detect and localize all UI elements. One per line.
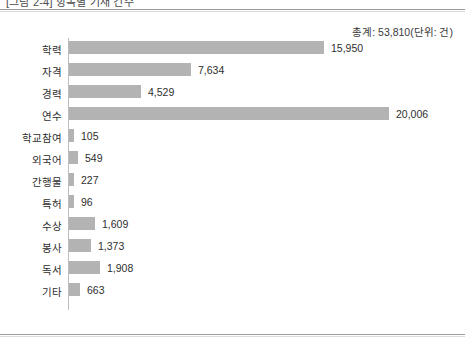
bar-category-label: 자격 [0, 64, 62, 79]
bar-row: 외국어549 [0, 148, 465, 170]
bar[interactable] [69, 63, 191, 76]
header-divider [0, 9, 465, 10]
bar[interactable] [69, 85, 141, 98]
figure-caption-text: [그림 2-4] 항목별 기재 건수 [6, 0, 134, 8]
bar-row: 기타663 [0, 280, 465, 302]
bar-category-label: 학교참여 [0, 130, 62, 145]
bar-category-label: 학력 [0, 42, 62, 57]
chart-total-label: 총계: 53,810(단위: 건) [352, 24, 453, 39]
bar-row: 봉사1,373 [0, 236, 465, 258]
bar-row: 경력4,529 [0, 82, 465, 104]
bar-value-label: 663 [87, 284, 105, 296]
bar-category-label: 특허 [0, 196, 62, 211]
bar-category-label: 기타 [0, 284, 62, 299]
footer-divider [0, 334, 465, 335]
bar-row: 간행물227 [0, 170, 465, 192]
bar[interactable] [69, 217, 95, 230]
bar[interactable] [69, 173, 74, 186]
bar-category-label: 간행물 [0, 174, 62, 189]
bar[interactable] [69, 283, 80, 296]
bar-value-label: 4,529 [148, 86, 174, 98]
bar-category-label: 외국어 [0, 152, 62, 167]
bar[interactable] [69, 195, 74, 208]
bar-value-label: 1,609 [102, 218, 128, 230]
bar-value-label: 1,373 [98, 240, 124, 252]
bar-category-label: 연수 [0, 108, 62, 123]
bar-category-label: 수상 [0, 218, 62, 233]
bar-row: 학교참여105 [0, 126, 465, 148]
bar[interactable] [69, 129, 74, 142]
bar-row: 특허96 [0, 192, 465, 214]
bar-value-label: 549 [85, 152, 103, 164]
figure-caption-strip: [그림 2-4] 항목별 기재 건수 [0, 0, 465, 8]
bar-row: 수상1,609 [0, 214, 465, 236]
bar[interactable] [69, 261, 100, 274]
bar-value-label: 20,006 [396, 108, 428, 120]
bar-category-label: 봉사 [0, 240, 62, 255]
bar[interactable] [69, 107, 389, 120]
bar[interactable] [69, 239, 91, 252]
bar-row: 독서1,908 [0, 258, 465, 280]
bar-value-label: 15,950 [331, 42, 363, 54]
bar-row: 연수20,006 [0, 104, 465, 126]
bar[interactable] [69, 151, 78, 164]
bar-category-label: 경력 [0, 86, 62, 101]
bar-value-label: 7,634 [198, 64, 224, 76]
chart-panel: 총계: 53,810(단위: 건) 학력15,950자격7,634경력4,529… [0, 12, 465, 335]
bar-value-label: 227 [81, 174, 99, 186]
bar-value-label: 105 [81, 130, 99, 142]
bar-category-label: 독서 [0, 262, 62, 277]
bar-chart-plot: 학력15,950자격7,634경력4,529연수20,006학교참여105외국어… [0, 38, 465, 316]
bar[interactable] [69, 41, 324, 54]
bar-row: 자격7,634 [0, 60, 465, 82]
footer-divider-shadow [0, 336, 465, 337]
bar-value-label: 1,908 [107, 262, 133, 274]
bar-value-label: 96 [81, 196, 93, 208]
bar-row: 학력15,950 [0, 38, 465, 60]
